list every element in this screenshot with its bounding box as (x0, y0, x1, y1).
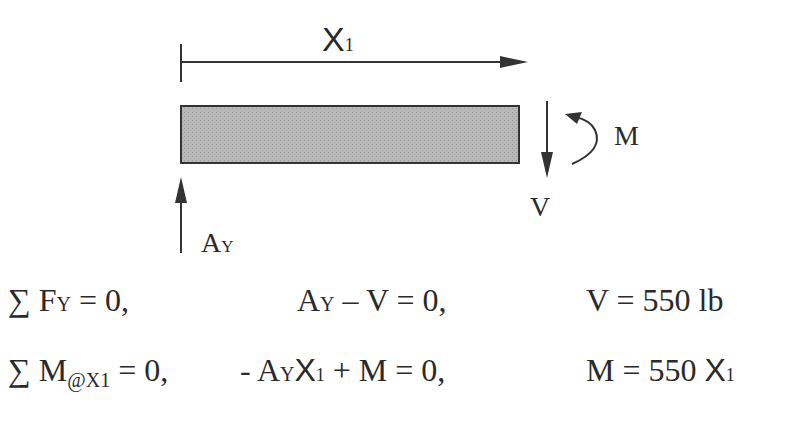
distance-subscript: 1 (316, 365, 325, 385)
distance-label-main: X (322, 20, 345, 58)
moment-arrow (565, 112, 597, 164)
force-variable: F (39, 282, 57, 318)
distance-label: X1 (322, 22, 354, 57)
sigma-symbol: ∑ (8, 352, 31, 388)
equation-2-condition: ∑ M@X1 = 0, (8, 354, 168, 386)
moment-subscript: @X1 (67, 369, 110, 391)
distance-label-sub: 1 (345, 35, 354, 55)
balance-rest: – V = 0, (335, 282, 447, 318)
shear-force-arrow (541, 101, 553, 178)
equation-1-balance: AY – V = 0, (297, 284, 447, 316)
reaction-label-sub: Y (221, 237, 233, 256)
moment-label: M (614, 120, 639, 152)
equation-2-balance: - AYX1 + M = 0, (240, 354, 445, 386)
equals-zero: = 0, (71, 282, 129, 318)
equals-zero: = 0, (110, 352, 168, 388)
balance-rest: + M = 0, (325, 352, 446, 388)
sigma-symbol: ∑ (8, 282, 31, 318)
force-subscript: Y (57, 293, 71, 315)
distance-subscript: 1 (726, 365, 735, 385)
arrow-down-icon (541, 152, 553, 178)
curved-arrow-icon (565, 112, 582, 124)
reaction-variable: - A (240, 352, 280, 388)
equation-1-result: V = 550 lb (586, 284, 723, 316)
reaction-subscript: Y (280, 363, 294, 385)
shear-label: V (530, 191, 550, 223)
equation-2-result: M = 550 X1 (586, 354, 735, 386)
distance-dimension (181, 44, 528, 82)
reaction-label: AY (201, 229, 234, 257)
equation-1-condition: ∑ FY = 0, (8, 284, 129, 316)
result-prefix: M = 550 (586, 352, 705, 388)
moment-variable: M (39, 352, 67, 388)
reaction-force-arrow (175, 177, 187, 253)
reaction-variable: A (297, 282, 320, 318)
reaction-label-main: A (201, 227, 221, 258)
distance-variable: X (294, 352, 315, 388)
arrow-up-icon (175, 177, 187, 203)
arrow-right-icon (500, 56, 528, 68)
distance-variable: X (705, 352, 726, 388)
beam-section (181, 106, 519, 163)
reaction-subscript: Y (320, 293, 334, 315)
